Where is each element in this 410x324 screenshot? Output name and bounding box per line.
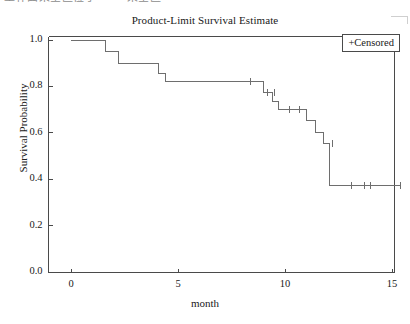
censored-tick-marks: [251, 78, 401, 188]
survival-step-curve: [71, 40, 401, 185]
y-tick-label: 0.0: [9, 265, 43, 276]
legend-censored: +Censored: [342, 34, 400, 52]
x-tick-label: 10: [265, 278, 305, 289]
axis-tick-marks: [49, 40, 393, 273]
axis-frame: [49, 37, 395, 273]
x-tick-label: 15: [372, 278, 410, 289]
y-tick-label: 0.8: [9, 79, 43, 90]
y-tick-label: 0.2: [9, 219, 43, 230]
y-tick-label: 0.6: [9, 126, 43, 137]
y-tick-label: 0.4: [9, 172, 43, 183]
x-axis-title: month: [0, 297, 410, 309]
x-tick-label: 5: [158, 278, 198, 289]
survival-chart-figure: Product-Limit Survival Estimate Survival…: [0, 0, 410, 324]
x-tick-label: 0: [51, 278, 91, 289]
legend-censored-label: +Censored: [348, 37, 394, 48]
y-tick-label: 1.0: [9, 33, 43, 44]
